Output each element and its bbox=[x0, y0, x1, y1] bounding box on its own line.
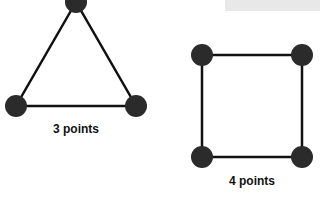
square-edges bbox=[202, 55, 302, 157]
square-node-top-left bbox=[191, 44, 213, 66]
square-node-bottom-left bbox=[191, 146, 213, 168]
triangle-node-bottom-right bbox=[125, 95, 147, 117]
diagram-canvas bbox=[0, 0, 320, 200]
square-label: 4 points bbox=[202, 174, 302, 188]
triangle-node-top bbox=[65, 0, 87, 13]
triangle-label: 3 points bbox=[26, 122, 126, 136]
square-diagram bbox=[191, 44, 313, 168]
triangle-node-bottom-left bbox=[5, 95, 27, 117]
triangle-edges bbox=[16, 2, 136, 106]
square-node-bottom-right bbox=[291, 146, 313, 168]
square-node-top-right bbox=[291, 44, 313, 66]
triangle-diagram bbox=[5, 0, 147, 117]
